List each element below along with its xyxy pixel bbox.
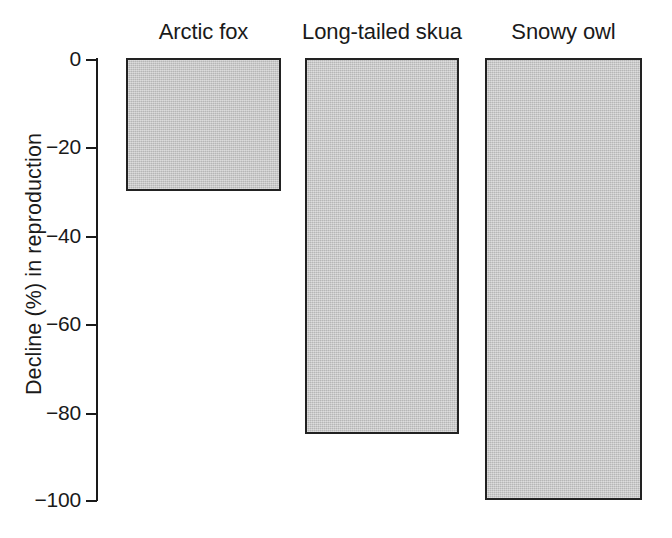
y-tick-label: −40 <box>13 225 81 246</box>
bar-long-tailed-skua <box>305 58 459 434</box>
y-tick-mark <box>86 500 97 502</box>
y-tick-label: 0 <box>13 48 81 69</box>
y-tick-mark <box>86 324 97 326</box>
y-tick-label: −80 <box>13 402 81 423</box>
y-axis-title: Decline (%) in reproduction <box>22 34 46 494</box>
bar-category-label-arctic-fox: Arctic fox <box>126 20 281 44</box>
bar-arctic-fox <box>126 58 281 191</box>
y-tick-mark <box>86 236 97 238</box>
y-tick-label: −100 <box>13 489 81 510</box>
y-axis-line <box>96 58 98 501</box>
bar-chart-figure: Decline (%) in reproduction 0 −20 −40 −6… <box>0 0 672 538</box>
y-tick-label: −60 <box>13 313 81 334</box>
y-tick-mark <box>86 59 97 61</box>
bar-snowy-owl <box>485 58 642 500</box>
bar-category-label-snowy-owl: Snowy owl <box>485 20 642 44</box>
y-tick-mark <box>86 147 97 149</box>
bar-category-label-long-tailed-skua: Long-tailed skua <box>300 20 464 44</box>
y-tick-mark <box>86 413 97 415</box>
y-tick-label: −20 <box>13 136 81 157</box>
